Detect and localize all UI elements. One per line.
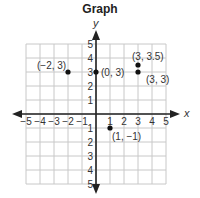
x-tick-label: 3 [135, 116, 141, 127]
coordinate-plane: xy−5−4−3−2−1123455432112345(−2, 3)(0, 3)… [0, 0, 200, 198]
x-axis-label: x [183, 107, 190, 119]
x-tick-label: −3 [48, 116, 60, 127]
y-tick-label: 1 [87, 95, 93, 106]
data-point [135, 62, 140, 67]
y-tick-label: 2 [87, 81, 93, 92]
x-tick-label: 5 [163, 116, 169, 127]
y-tick-label: 5 [87, 39, 93, 50]
y-axis-down-arrow-icon [92, 184, 100, 194]
point-label: (3, 3.5) [132, 51, 164, 62]
y-tick-label: 4 [87, 165, 93, 176]
data-point [93, 69, 98, 74]
y-tick-label: 1 [87, 123, 93, 134]
data-point [107, 125, 112, 130]
y-tick-label: 3 [87, 67, 93, 78]
point-label: (0, 3) [101, 67, 124, 78]
x-tick-label: 1 [107, 116, 113, 127]
x-axis-right-arrow-icon [170, 110, 180, 118]
x-tick-label: 2 [121, 116, 127, 127]
point-label: (3, 3) [146, 74, 169, 85]
x-tick-label: −4 [34, 116, 46, 127]
y-tick-label: 3 [87, 151, 93, 162]
point-label: (−2, 3) [37, 60, 66, 71]
y-tick-label: 4 [87, 53, 93, 64]
y-axis-up-arrow-icon [92, 30, 100, 40]
x-tick-label: 4 [149, 116, 155, 127]
y-tick-label: 2 [87, 137, 93, 148]
y-axis-label: y [92, 17, 100, 29]
x-tick-label: −5 [20, 116, 32, 127]
x-tick-label: −2 [62, 116, 74, 127]
x-tick-label: −1 [76, 116, 88, 127]
data-point [135, 69, 140, 74]
point-label: (1, −1) [112, 131, 141, 142]
y-tick-label: 5 [87, 179, 93, 190]
